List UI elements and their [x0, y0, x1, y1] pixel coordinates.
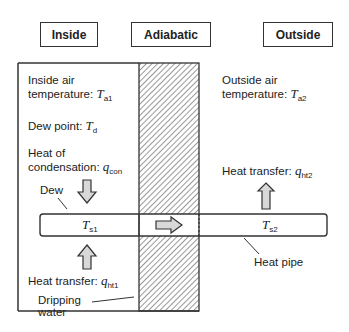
header-outside: Outside [263, 22, 333, 47]
heat-pipe-leader-line [244, 238, 259, 254]
dew-label: Dew [40, 184, 63, 197]
header-adiabatic: Adiabatic [131, 22, 211, 47]
dew-point-label: Dew point: Td [28, 119, 97, 137]
header-inside-label: Inside [52, 28, 87, 42]
dripping-water-label: Dripping water [38, 294, 81, 318]
down-arrow-icon [78, 180, 96, 203]
heat-transfer-outside-label: Heat transfer: qht2 [222, 164, 313, 182]
heat-transfer-inside-label: Heat transfer: qht1 [28, 274, 119, 292]
pipe-temperature-outside-label: Ts2 [262, 218, 278, 236]
up-arrow-outside-icon [258, 183, 274, 209]
header-outside-label: Outside [276, 28, 321, 42]
heat-of-condensation-label: Heat of condensation: qcon [28, 147, 122, 178]
dew-leader-line [58, 198, 67, 209]
inside-air-temperature-label: Inside air temperature: Ta1 [28, 74, 113, 105]
adiabatic-wall [139, 63, 199, 311]
outside-air-temperature-label: Outside air temperature: Ta2 [222, 74, 307, 105]
pipe-temperature-inside-label: Ts1 [82, 218, 98, 236]
header-inside: Inside [40, 22, 98, 47]
header-adiabatic-label: Adiabatic [144, 28, 198, 42]
up-arrow-icon [78, 245, 96, 269]
heat-pipe-label: Heat pipe [254, 256, 303, 269]
dripping-leader-line [92, 297, 134, 302]
